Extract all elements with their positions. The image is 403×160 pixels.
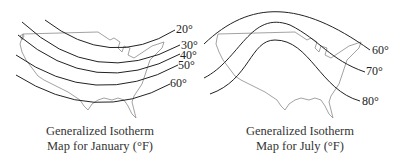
isotherm-label-20: 20° (176, 22, 193, 37)
january-caption-line1: Generalized Isotherm (40, 124, 160, 139)
january-map-figure (0, 0, 200, 125)
january-caption: Generalized Isotherm Map for January (°F… (40, 124, 160, 154)
isotherm-20 (45, 20, 175, 48)
july-isotherms (204, 12, 370, 101)
isotherm-label-70: 70° (366, 64, 383, 79)
july-caption-line1: Generalized Isotherm (240, 124, 360, 139)
isotherm-60 (16, 75, 170, 102)
january-caption-line2: Map for January (°F) (40, 139, 160, 154)
isotherm-70 (204, 22, 365, 78)
january-map-panel: 20° 30° 40° 50° 60° Generalized Isotherm… (0, 0, 200, 160)
isotherm-50 (16, 55, 178, 85)
july-caption-line2: Map for July (°F) (240, 139, 360, 154)
isotherm-80 (210, 40, 360, 101)
isotherm-label-80: 80° (362, 94, 379, 109)
isotherm-30 (22, 22, 180, 63)
isotherm-label-60: 60° (170, 76, 187, 91)
isotherm-60 (204, 12, 370, 50)
july-caption: Generalized Isotherm Map for July (°F) (240, 124, 360, 154)
july-map-panel: 60° 70° 80° Generalized Isotherm Map for… (200, 0, 403, 160)
isotherm-label-60: 60° (372, 43, 389, 58)
isotherm-label-50: 50° (178, 58, 195, 73)
